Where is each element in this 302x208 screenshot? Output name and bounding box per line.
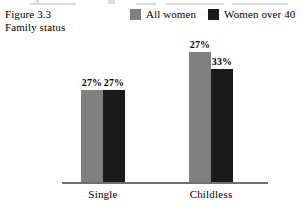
bar-value-label-childless-all-women: 27% [183, 39, 217, 50]
bar-single-all-women [81, 90, 103, 182]
x-axis-line [62, 182, 268, 184]
bar-value-label-childless-women-over-40: 33% [205, 56, 239, 67]
category-label-single: Single [57, 188, 149, 200]
figure-root: Figure 3.3 Family status All women Women… [0, 0, 302, 208]
category-label-childless: Childless [165, 188, 257, 200]
bar-childless-all-women [189, 52, 211, 182]
bar-childless-women-over-40 [211, 69, 233, 182]
plot-area: 27%27%27%33% SingleChildless [0, 0, 302, 208]
bar-single-women-over-40 [103, 90, 125, 182]
bar-value-label-single-women-over-40: 27% [97, 77, 131, 88]
